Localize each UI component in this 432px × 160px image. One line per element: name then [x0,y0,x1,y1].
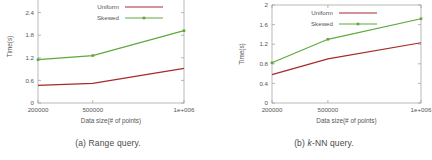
y-tick-label: 0.4 [259,80,268,87]
y-tick-label: 1.6 [259,21,268,28]
legend-label-uniform: Uniform [311,9,333,16]
x-tick-label: 200000 [262,106,283,113]
y-tick-label: 2 [265,1,269,8]
y-tick-label: 0.6 [25,77,34,84]
y-tick-label: 1.2 [259,40,268,47]
data-point-marker [420,17,423,20]
legend-marker [143,17,146,20]
chart-range-query: 00.61.21.82.432000005000001e+006Data siz… [0,0,216,132]
caption-a: (a) Range query. [0,138,216,148]
caption-b-prefix: (b) [294,138,305,148]
y-axis-title: Time(s) [6,36,14,57]
x-tick-label: 1e+006 [174,106,195,113]
figure-panel-b: 00.40.81.21.622000005000001e+006Data siz… [216,0,432,160]
legend-label-skewed: Skewed [311,20,334,27]
x-tick-label: 500000 [318,106,339,113]
series-line-uniform [272,43,421,75]
x-axis-title: Data size(# of points) [316,117,376,125]
y-tick-label: 0.8 [259,60,268,67]
figure-panel-a: 00.61.21.82.432000005000001e+006Data siz… [0,0,216,160]
data-point-marker [327,38,330,41]
y-tick-label: 1.2 [25,54,34,61]
chart-knn-query: 00.40.81.21.622000005000001e+006Data siz… [216,0,432,132]
y-axis-title: Time(s) [238,43,246,64]
y-tick-label: 2.4 [25,9,34,16]
data-point-marker [37,58,40,61]
caption-b: (b) k-NN query. [216,138,432,148]
legend-marker [357,23,360,26]
series-line-skewed [38,31,184,60]
data-point-marker [183,29,186,32]
data-point-marker [91,54,94,57]
y-tick-label: 1.8 [25,31,34,38]
x-tick-label: 1e+006 [411,106,432,113]
x-tick-label: 200000 [28,106,49,113]
series-line-uniform [38,68,184,85]
caption-b-rest: NN query. [315,138,354,148]
data-point-marker [271,62,274,65]
x-tick-label: 500000 [82,106,103,113]
legend-label-uniform: Uniform [97,3,119,10]
x-axis-title: Data size(# of points) [81,117,141,125]
legend-label-skewed: Skewed [97,14,120,21]
caption-a-text: (a) Range query. [75,138,141,148]
